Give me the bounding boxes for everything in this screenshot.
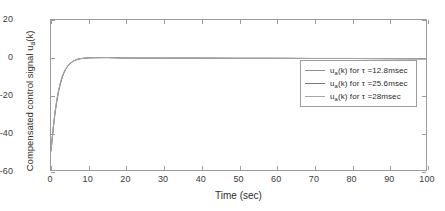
x-tick-top [353, 20, 354, 24]
legend[interactable]: ua(k) for τ =12.8msecua(k) for τ =25.6ms… [300, 60, 417, 107]
y-axis-label-tail: (k) [24, 31, 35, 42]
legend-label: ua(k) for τ =12.8msec [330, 66, 408, 76]
y-tick [51, 58, 55, 59]
legend-line-swatch [305, 70, 325, 71]
x-tick-label: 20 [120, 174, 130, 184]
x-tick-top [126, 20, 127, 24]
y-axis-label: Compensated control signal ua(k) [24, 16, 36, 186]
x-tick [240, 166, 241, 170]
y-tick-right [422, 96, 426, 97]
legend-label: ua(k) for τ =28msec [330, 92, 401, 102]
x-tick-label: 60 [271, 174, 281, 184]
x-tick-top [89, 20, 90, 24]
x-tick-top [315, 20, 316, 24]
x-tick-top [277, 20, 278, 24]
x-tick [126, 166, 127, 170]
x-axis-label: Time (sec) [50, 190, 427, 201]
x-tick [390, 166, 391, 170]
legend-entry-1[interactable]: ua(k) for τ =12.8msec [303, 64, 414, 77]
x-tick-label: 40 [196, 174, 206, 184]
x-tick-label: 50 [233, 174, 243, 184]
y-tick-right [422, 134, 426, 135]
figure-canvas: Compensated control signal ua(k) 200-20-… [0, 0, 445, 211]
y-tick-right [422, 172, 426, 173]
y-tick-right [422, 20, 426, 21]
x-tick [51, 166, 52, 170]
legend-line-swatch [305, 83, 325, 84]
x-tick-label: 30 [158, 174, 168, 184]
x-tick-top [240, 20, 241, 24]
y-tick [51, 20, 55, 21]
legend-label: ua(k) for τ =25.6msec [330, 79, 408, 89]
x-tick-top [390, 20, 391, 24]
x-tick [89, 166, 90, 170]
y-tick-right [422, 58, 426, 59]
legend-line-swatch [305, 96, 325, 97]
y-axis-label-subscript: a [29, 42, 36, 46]
y-tick-label: -20 [0, 90, 13, 100]
x-tick-label: 80 [346, 174, 356, 184]
x-tick-top [202, 20, 203, 24]
x-tick-label: 70 [309, 174, 319, 184]
x-tick-label: 90 [384, 174, 394, 184]
y-tick-label: -40 [0, 128, 13, 138]
y-tick [51, 96, 55, 97]
x-tick [315, 166, 316, 170]
x-tick [202, 166, 203, 170]
x-tick [428, 166, 429, 170]
x-tick-top [428, 20, 429, 24]
y-tick-label: 20 [3, 14, 13, 24]
x-tick-label: 0 [47, 174, 52, 184]
legend-entry-3[interactable]: ua(k) for τ =28msec [303, 90, 414, 103]
y-tick [51, 172, 55, 173]
y-tick-label: -60 [0, 166, 13, 176]
legend-entry-2[interactable]: ua(k) for τ =25.6msec [303, 77, 414, 90]
x-tick [277, 166, 278, 170]
x-tick-label: 10 [83, 174, 93, 184]
y-tick [51, 134, 55, 135]
x-tick-label: 100 [419, 174, 434, 184]
x-tick [353, 166, 354, 170]
y-tick-label: 0 [8, 52, 13, 62]
x-tick [164, 166, 165, 170]
x-tick-top [164, 20, 165, 24]
y-axis-label-main: Compensated control signal u [24, 46, 35, 172]
